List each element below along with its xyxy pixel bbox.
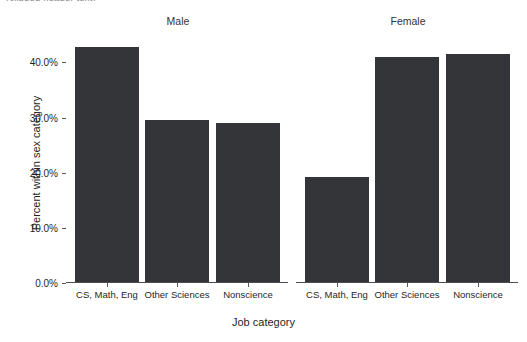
x-tick-mark-female-1: [407, 283, 408, 287]
x-label-male-other-sciences: Other Sciences: [136, 289, 218, 300]
x-axis-title: Job category: [0, 316, 527, 328]
bar-female-other-sciences[interactable]: [375, 57, 439, 282]
x-label-female-nonscience: Nonscience: [437, 289, 519, 300]
x-tick-mark-female-0: [337, 283, 338, 287]
x-label-male-nonscience: Nonscience: [207, 289, 289, 300]
bar-male-cs-math-eng[interactable]: [75, 47, 139, 282]
y-tick-label-30: 30.0%: [30, 113, 58, 124]
y-tick-label-40: 40.0%: [30, 57, 58, 68]
panel-male: [66, 30, 288, 283]
bar-female-cs-math-eng[interactable]: [305, 177, 369, 282]
facet-label-female: Female: [370, 15, 446, 27]
panel-male-inner: [66, 30, 288, 283]
y-axis-ticks: 0.0% 10.0% 20.0% 30.0% 40.0%: [0, 0, 66, 342]
x-tick-mark-male-0: [107, 283, 108, 287]
x-label-female-other-sciences: Other Sciences: [366, 289, 448, 300]
x-axis-line-male: [66, 282, 288, 283]
x-axis-line-female: [296, 282, 518, 283]
bar-chart-figure: (clipped header text) Male Female Percen…: [0, 0, 527, 342]
bar-male-other-sciences[interactable]: [145, 120, 209, 282]
y-tick-label-0: 0.0%: [35, 278, 58, 289]
y-tick-label-10: 10.0%: [30, 223, 58, 234]
bar-male-nonscience[interactable]: [216, 123, 280, 282]
x-tick-mark-female-2: [478, 283, 479, 287]
bar-female-nonscience[interactable]: [446, 54, 510, 282]
facet-label-male: Male: [140, 15, 216, 27]
y-tick-label-20: 20.0%: [30, 168, 58, 179]
panel-female-inner: [296, 30, 518, 283]
y-tick-mark-0: [62, 283, 66, 284]
x-tick-mark-male-2: [248, 283, 249, 287]
x-tick-mark-male-1: [177, 283, 178, 287]
panel-female: [296, 30, 518, 283]
